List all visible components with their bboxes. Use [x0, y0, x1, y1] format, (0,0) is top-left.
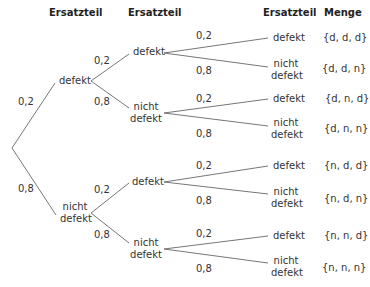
prob-nd-n: 0,8	[196, 195, 212, 206]
node-l2-nd: defekt	[132, 176, 164, 188]
prob-nn-d: 0,2	[196, 228, 212, 239]
prob-dn-d: 0,2	[196, 93, 212, 104]
set-dnn: {d, n, n}	[324, 123, 368, 134]
leaf-1: defekt	[273, 32, 305, 44]
prob-l1b-nicht: 0,8	[94, 229, 110, 240]
set-ndn: {n, d, n}	[324, 193, 368, 204]
prob-l1a-defekt: 0,2	[94, 55, 110, 66]
set-dnd: {d, n, d}	[325, 93, 369, 104]
node-l2-dn: nichtdefekt	[130, 101, 162, 125]
leaf-6: nichtdefekt	[271, 186, 301, 210]
node-l2-dd: defekt	[133, 46, 165, 58]
prob-l1a-nicht: 0,8	[94, 96, 110, 107]
prob-nd-d: 0,2	[196, 160, 212, 171]
set-nnn: {n, n, n}	[322, 262, 366, 273]
prob-l1b-defekt: 0,2	[94, 184, 110, 195]
set-ddn: {d, d, n}	[322, 63, 366, 74]
prob-nn-n: 0,8	[196, 263, 212, 274]
leaf-4: nichtdefekt	[271, 117, 301, 141]
node-l1-defekt: defekt	[59, 75, 91, 87]
set-ndd: {n, d, d}	[324, 160, 368, 171]
tree-branches	[0, 0, 370, 287]
prob-root-defekt: 0,2	[18, 96, 34, 107]
leaf-8: nichtdefekt	[271, 255, 301, 279]
set-nnd: {n, n, d}	[324, 230, 368, 241]
leaf-7: defekt	[273, 230, 305, 242]
leaf-5: defekt	[273, 160, 305, 172]
node-l1-nicht-defekt: nichtdefekt	[60, 201, 90, 225]
set-ddd: {d, d, d}	[323, 32, 367, 43]
node-l2-nn: nichtdefekt	[130, 237, 162, 261]
prob-root-nicht-defekt: 0,8	[18, 183, 34, 194]
leaf-3: defekt	[273, 93, 305, 105]
leaf-2: nichtdefekt	[271, 58, 301, 82]
prob-dd-d: 0,2	[196, 30, 212, 41]
prob-dd-n: 0,8	[196, 65, 212, 76]
prob-dn-n: 0,8	[196, 128, 212, 139]
